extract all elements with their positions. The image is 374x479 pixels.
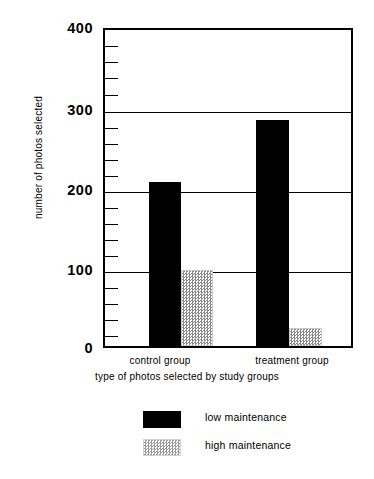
legend-label-high-maintenance: high maintenance [205, 439, 291, 451]
minor-tick-380 [105, 46, 118, 47]
minor-tick-220 [105, 176, 118, 177]
gridline-200 [105, 192, 351, 193]
bar-control-low-maintenance [149, 182, 181, 346]
minor-tick-180 [105, 208, 118, 209]
y-tick-label-0: 0 [31, 341, 93, 356]
y-tick-label-200: 200 [31, 183, 93, 198]
legend-swatch-solid-black [143, 411, 181, 428]
minor-tick-320 [105, 95, 118, 96]
chart-legend: low maintenance high maintenance [143, 408, 373, 464]
minor-tick-60 [105, 304, 118, 305]
bar-control-high-maintenance [181, 270, 213, 346]
category-label-treatment-group: treatment group [237, 355, 347, 366]
legend-label-low-maintenance: low maintenance [205, 411, 287, 423]
plot-area [103, 28, 353, 348]
minor-tick-340 [105, 78, 118, 79]
x-axis-title: type of photos selected by study groups [0, 371, 374, 382]
minor-tick-240 [105, 160, 118, 161]
legend-item-low-maintenance: low maintenance [143, 408, 373, 436]
bar-chart-figure: number of photos selected 400 300 200 10… [0, 0, 374, 479]
gridline-300 [105, 112, 351, 113]
minor-tick-80 [105, 288, 118, 289]
minor-tick-280 [105, 128, 118, 129]
y-tick-label-100: 100 [31, 263, 93, 278]
y-tick-label-300: 300 [31, 103, 93, 118]
bar-treatment-high-maintenance [289, 328, 322, 346]
legend-swatch-stipple-dotted [143, 439, 181, 456]
minor-tick-360 [105, 62, 118, 63]
y-tick-label-400: 400 [31, 21, 93, 36]
minor-tick-140 [105, 240, 118, 241]
gridline-100 [105, 272, 351, 273]
minor-tick-260 [105, 144, 118, 145]
minor-tick-20 [105, 336, 118, 337]
minor-tick-40 [105, 320, 118, 321]
category-label-control-group: control group [110, 355, 210, 366]
minor-tick-120 [105, 256, 118, 257]
legend-item-high-maintenance: high maintenance [143, 436, 373, 464]
minor-tick-160 [105, 224, 118, 225]
bar-treatment-low-maintenance [256, 120, 289, 346]
